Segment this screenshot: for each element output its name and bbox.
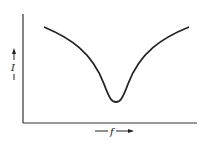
y-axis-label: I bbox=[3, 50, 15, 86]
x-axis-label: f bbox=[95, 126, 135, 138]
chart: I f bbox=[0, 0, 205, 145]
chart-svg bbox=[0, 0, 205, 145]
data-curve bbox=[44, 27, 189, 102]
